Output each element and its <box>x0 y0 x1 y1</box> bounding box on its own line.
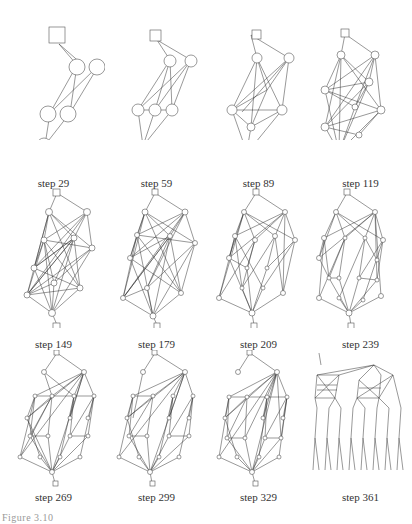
network-graph-step-361 <box>309 350 412 490</box>
panel-label: step 329 <box>207 491 310 503</box>
panel-step-299 <box>105 350 208 508</box>
panel-step-29 <box>2 0 105 158</box>
panel-step-239 <box>309 188 412 346</box>
network-graph-step-299 <box>105 350 208 490</box>
panel-step-119 <box>309 0 412 158</box>
network-graph-step-269 <box>2 350 105 490</box>
network-graph-step-119 <box>309 0 412 140</box>
network-graph-step-239 <box>309 188 412 328</box>
panel-step-361 <box>309 350 412 508</box>
panel-label: step 269 <box>2 491 105 503</box>
panel-label: step 179 <box>105 338 208 350</box>
panel-step-179 <box>105 188 208 346</box>
panel-label: step 239 <box>309 338 412 350</box>
network-graph-step-209 <box>207 188 310 328</box>
panel-label: step 361 <box>309 491 412 503</box>
panel-label: step 209 <box>207 338 310 350</box>
panel-step-329 <box>207 350 310 508</box>
panel-step-269 <box>2 350 105 508</box>
panel-step-209 <box>207 188 310 346</box>
panel-step-149 <box>2 188 105 346</box>
vertical-chain-lines <box>313 408 403 470</box>
network-graph-step-59 <box>105 0 208 140</box>
network-graph-step-329 <box>207 350 310 490</box>
figure-caption: Figure 3.10 <box>2 512 54 523</box>
panel-label: step 299 <box>105 491 208 503</box>
panel-step-59 <box>105 0 208 158</box>
network-graph-step-29 <box>2 0 105 140</box>
panel-label: step 149 <box>2 338 105 350</box>
network-graph-step-149 <box>2 188 105 328</box>
panel-step-89 <box>207 0 310 158</box>
network-graph-step-89 <box>207 0 310 140</box>
network-graph-step-179 <box>105 188 208 328</box>
